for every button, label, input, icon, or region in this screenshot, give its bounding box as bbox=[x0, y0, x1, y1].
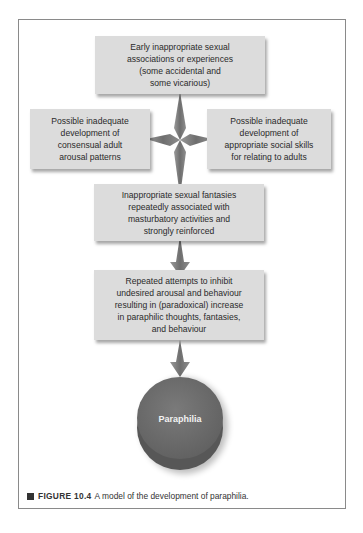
node-adult-arousal: Possible inadequate development of conse… bbox=[30, 109, 150, 169]
node-text: development of bbox=[225, 127, 314, 139]
node-text: in paraphilic thoughts, fantasies, bbox=[115, 311, 244, 323]
paraphilia-label: Paraphilia bbox=[140, 414, 220, 424]
figure-number: FIGURE 10.4 bbox=[38, 491, 92, 501]
caption-text: A model of the development of paraphilia… bbox=[95, 491, 249, 501]
node-text: Repeated attempts to inhibit bbox=[115, 275, 244, 287]
node-inhibit-attempts: Repeated attempts to inhibit undesired a… bbox=[94, 270, 264, 340]
node-text: some vicarious) bbox=[127, 77, 233, 89]
node-text: masturbatory activities and bbox=[122, 213, 237, 225]
node-text: appropriate social skills bbox=[225, 139, 314, 151]
down-arrow-icon bbox=[170, 340, 190, 377]
node-text: arousal patterns bbox=[51, 151, 128, 163]
node-text: undesired arousal and behaviour bbox=[115, 287, 244, 299]
caption-square-icon bbox=[27, 493, 34, 500]
node-text: strongly reinforced bbox=[122, 225, 237, 237]
node-text: and behaviour bbox=[115, 323, 244, 335]
node-social-skills: Possible inadequate development of appro… bbox=[207, 109, 331, 169]
node-text: Possible inadequate bbox=[51, 115, 128, 127]
node-text: resulting in (paradoxical) increase bbox=[115, 299, 244, 311]
node-text: associations or experiences bbox=[127, 53, 233, 65]
paraphilia-disk bbox=[137, 377, 228, 474]
node-text: Early inappropriate sexual bbox=[127, 41, 233, 53]
four-way-arrow-icon bbox=[146, 92, 212, 196]
node-text: (some accidental and bbox=[127, 65, 233, 77]
node-text: consensual adult bbox=[51, 139, 128, 151]
node-text: repeatedly associated with bbox=[122, 201, 237, 213]
node-text: Possible inadequate bbox=[225, 115, 314, 127]
figure-caption: FIGURE 10.4A model of the development of… bbox=[27, 491, 249, 501]
node-text: Inappropriate sexual fantasies bbox=[122, 189, 237, 201]
node-text: development of bbox=[51, 127, 128, 139]
node-text: for relating to adults bbox=[225, 151, 314, 163]
node-early-experiences: Early inappropriate sexual associations … bbox=[95, 36, 265, 94]
node-fantasies: Inappropriate sexual fantasies repeatedl… bbox=[94, 184, 264, 241]
